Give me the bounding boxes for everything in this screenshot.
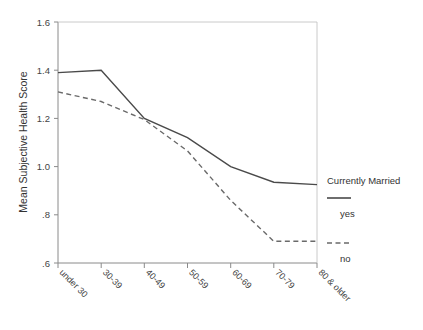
x-tick-label: 70-79	[273, 267, 296, 290]
legend-label-no: no	[340, 253, 351, 264]
series-line-no	[58, 92, 317, 241]
x-tick-label: 80 & older	[317, 267, 353, 303]
y-tick-label: 1.6	[37, 17, 50, 28]
y-axis-tick-labels: 1.6 1.4 1.2 1.0 .8 .6	[37, 17, 50, 269]
series-line-yes	[58, 70, 317, 184]
legend-label-yes: yes	[340, 208, 355, 219]
legend-title: Currently Married	[327, 175, 400, 186]
x-axis-ticks	[58, 263, 317, 268]
x-tick-label: 50-59	[187, 267, 210, 290]
y-axis-ticks	[54, 22, 58, 263]
chart-container: 1.6 1.4 1.2 1.0 .8 .6 Mean Subjective He…	[0, 0, 423, 330]
chart-svg: 1.6 1.4 1.2 1.0 .8 .6 Mean Subjective He…	[0, 0, 423, 330]
x-tick-label: under 30	[58, 267, 90, 299]
y-tick-label: 1.0	[37, 161, 50, 172]
y-tick-label: .6	[42, 258, 50, 269]
legend: Currently Married yes no	[327, 175, 400, 264]
y-axis-title: Mean Subjective Health Score	[17, 71, 29, 212]
x-axis-tick-labels: under 30 30-39 40-49 50-59 60-69 70-79 8…	[58, 267, 353, 303]
y-tick-label: .8	[42, 209, 50, 220]
plot-frame	[58, 22, 317, 263]
x-tick-label: 30-39	[101, 267, 124, 290]
y-tick-label: 1.4	[37, 65, 50, 76]
x-tick-label: 40-49	[144, 267, 167, 290]
x-tick-label: 60-69	[230, 267, 253, 290]
y-tick-label: 1.2	[37, 113, 50, 124]
